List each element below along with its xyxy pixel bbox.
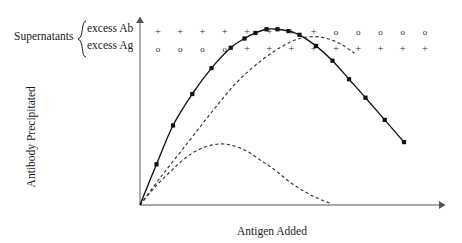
data-point-marker xyxy=(297,33,301,37)
precipitin-curve-figure: Supernatants excess Ab excess Ag +++++++… xyxy=(0,0,462,243)
precipitin-solid-curve xyxy=(140,29,404,205)
data-point-marker xyxy=(363,96,367,100)
data-point-marker xyxy=(347,77,351,81)
data-point-marker xyxy=(264,27,268,31)
data-point-marker xyxy=(171,123,175,127)
data-point-marker xyxy=(190,92,194,96)
data-point-marker xyxy=(330,59,334,63)
axis-lines xyxy=(140,22,440,205)
data-point-marker xyxy=(383,118,387,122)
data-point-marker xyxy=(154,162,158,166)
data-point-marker xyxy=(402,140,406,144)
data-point-marker xyxy=(209,66,213,70)
data-point-marker xyxy=(253,31,257,35)
data-point-marker xyxy=(275,27,279,31)
antibody-excess-dashed-curve xyxy=(140,37,355,205)
data-point-marker xyxy=(242,36,246,40)
antigen-excess-dashed-curve xyxy=(140,144,330,205)
data-point-marker xyxy=(286,29,290,33)
data-point-marker xyxy=(229,46,233,50)
data-point-marker xyxy=(314,44,318,48)
plot-area xyxy=(0,0,462,243)
